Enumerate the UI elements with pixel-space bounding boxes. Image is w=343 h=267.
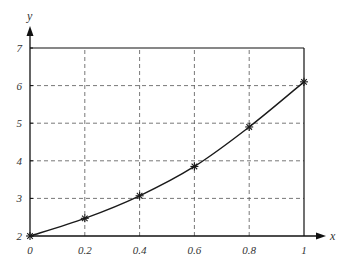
axes [27, 26, 327, 240]
x-tick-label: 0.4 [133, 244, 147, 256]
x-axis-label: x [329, 229, 336, 243]
grid-lines [30, 48, 304, 236]
x-axis-arrow-icon [316, 233, 326, 240]
y-axis-label: y [26, 9, 33, 23]
asterisk-marker-icon [190, 162, 198, 170]
asterisk-marker-icon [300, 78, 308, 86]
x-tick-label: 0.8 [242, 244, 256, 256]
asterisk-marker-icon [81, 214, 89, 222]
y-tick-label: 4 [17, 155, 23, 167]
x-tick-label: 0 [27, 244, 33, 256]
y-axis-arrow-icon [27, 26, 34, 36]
y-tick-label: 2 [17, 230, 23, 242]
y-tick-labels: 234567 [16, 42, 23, 242]
y-tick-label: 6 [17, 80, 23, 92]
y-tick-label: 5 [17, 117, 23, 129]
asterisk-marker-icon [26, 232, 34, 240]
x-tick-labels: 00.20.40.60.81 [27, 244, 307, 256]
x-tick-label: 0.6 [188, 244, 202, 256]
y-tick-label: 7 [17, 42, 23, 54]
line-chart: 00.20.40.60.81 234567 x y [0, 0, 343, 267]
plot-frame [30, 48, 304, 236]
data-series [26, 78, 308, 240]
x-tick-label: 0.2 [78, 244, 92, 256]
y-tick-label: 3 [16, 192, 23, 204]
x-tick-label: 1 [301, 244, 307, 256]
series-line [30, 82, 304, 236]
